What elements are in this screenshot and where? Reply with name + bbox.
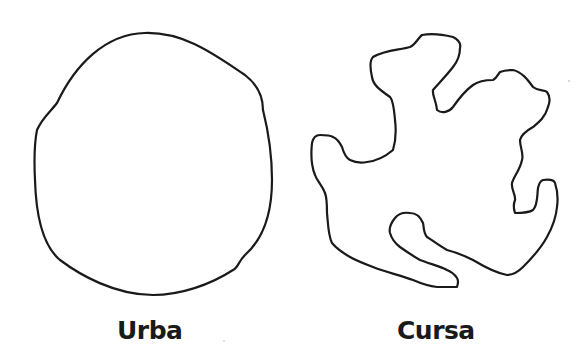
shapes-figure	[0, 0, 577, 357]
cursa-shape	[311, 34, 557, 287]
speck	[223, 340, 225, 342]
cursa-label: Cursa	[397, 316, 475, 345]
urba-label: Urba	[117, 316, 182, 345]
urba-shape	[35, 33, 272, 295]
speck	[568, 80, 570, 82]
